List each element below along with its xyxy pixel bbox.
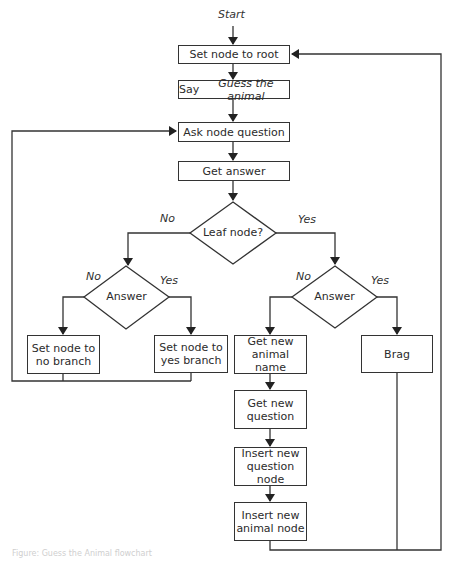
set-node-to-no-branch-box: Set node to no branch (27, 335, 100, 374)
insert-new-question-node-box: Insert new question node (234, 447, 307, 486)
right-answer-yes-label: Yes (371, 274, 389, 287)
brag-box: Brag (361, 335, 433, 373)
leaf-no-label: No (160, 212, 175, 225)
say-guess-the-animal-box: Say Guess the animal (178, 80, 290, 99)
set-node-to-root-box: Set node to root (178, 45, 290, 64)
ask-node-question-box: Ask node question (178, 122, 290, 142)
leaf-node-decision: Leaf node? (190, 226, 276, 239)
get-new-animal-name-box: Get new animal name (234, 335, 307, 374)
guess-the-animal-text: Guess the animal (203, 77, 289, 103)
get-new-question-box: Get new question (234, 390, 307, 429)
answer-decision-left: Answer (84, 290, 169, 303)
leaf-yes-label: Yes (298, 213, 316, 226)
right-answer-no-label: No (296, 270, 311, 283)
say-prefix: Say (179, 83, 199, 96)
start-label: Start (218, 8, 245, 21)
answer-decision-right: Answer (292, 290, 377, 303)
insert-new-animal-node-box: Insert new animal node (234, 502, 307, 541)
left-answer-no-label: No (86, 270, 101, 283)
set-node-to-yes-branch-box: Set node to yes branch (154, 335, 228, 373)
get-answer-box: Get answer (178, 161, 290, 181)
left-answer-yes-label: Yes (160, 274, 178, 287)
figure-caption: Figure: Guess the Animal flowchart (12, 549, 152, 558)
